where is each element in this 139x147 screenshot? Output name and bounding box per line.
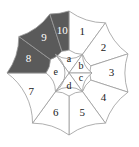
outer-sector-label-4: 4 (101, 91, 107, 103)
inner-sector-label-d: d (67, 80, 72, 91)
inner-sector-label-b: b (78, 60, 83, 71)
circular-wheel-diagram: 12345678910 abcde (0, 0, 139, 147)
outer-sector-label-2: 2 (101, 41, 107, 53)
outer-sector-label-1: 1 (79, 25, 85, 37)
wheel-svg: 12345678910 abcde (0, 0, 139, 147)
inner-sector-label-e: e (53, 66, 58, 77)
inner-sector-label-a: a (67, 53, 72, 64)
outer-sector-label-5: 5 (79, 106, 85, 118)
outer-sector-label-3: 3 (109, 66, 115, 78)
outer-sector-label-9: 9 (41, 31, 47, 43)
inner-sector-label-c: c (79, 72, 84, 83)
outer-sector-label-7: 7 (28, 85, 34, 97)
outer-sector-label-10: 10 (57, 24, 69, 36)
outer-sector-label-8: 8 (26, 52, 32, 64)
outer-sector-label-6: 6 (53, 106, 59, 118)
